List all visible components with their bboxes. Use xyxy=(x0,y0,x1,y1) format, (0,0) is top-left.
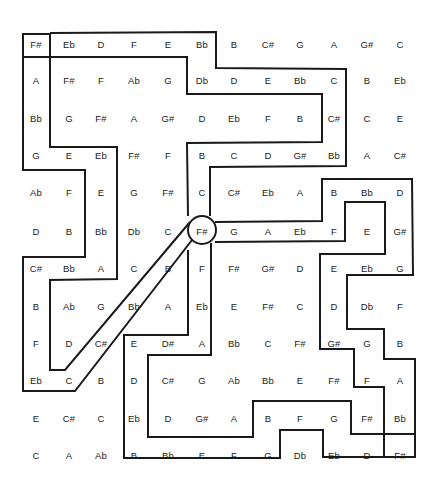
note-cell: F# xyxy=(328,375,340,386)
note-cell: G xyxy=(296,39,304,50)
note-cell: G# xyxy=(360,39,373,50)
note-cell: C xyxy=(97,413,104,424)
note-cell: C# xyxy=(30,263,43,274)
note-cell: F# xyxy=(228,263,240,274)
note-cell: A xyxy=(199,338,206,349)
note-cell: G# xyxy=(161,113,174,124)
note-cell: F xyxy=(199,263,205,274)
note-cell: C# xyxy=(162,375,175,386)
note-cell: Ab xyxy=(95,450,107,461)
note-cell: F xyxy=(364,375,370,386)
note-cell: Bb xyxy=(196,39,208,50)
note-cell: A xyxy=(331,39,338,50)
wall-right-lower xyxy=(148,202,385,437)
note-cell: Eb xyxy=(95,150,107,161)
note-cell: F# xyxy=(128,150,140,161)
note-cell: G# xyxy=(293,150,306,161)
note-cell: F xyxy=(397,301,403,312)
note-cell: F xyxy=(297,413,303,424)
note-cell: D xyxy=(330,301,337,312)
note-cell: F xyxy=(265,113,271,124)
note-cell: Eb xyxy=(328,450,340,461)
note-cell: A xyxy=(165,301,172,312)
note-cell: F# xyxy=(196,226,208,237)
note-cell: C xyxy=(230,150,237,161)
note-cell: G# xyxy=(261,263,274,274)
note-cell: C xyxy=(164,226,171,237)
note-cell: F xyxy=(131,39,137,50)
note-cell: D xyxy=(65,338,72,349)
note-cell: Db xyxy=(294,450,307,461)
note-cell: F# xyxy=(394,450,406,461)
note-cell: Eb xyxy=(128,413,140,424)
note-cell: C xyxy=(363,113,370,124)
note-cell: Eb xyxy=(361,263,373,274)
note-cell: Bb xyxy=(294,75,306,86)
note-cell: Db xyxy=(128,226,141,237)
note-cell: Eb xyxy=(196,301,208,312)
note-cell: F# xyxy=(63,75,75,86)
note-cell: B xyxy=(98,375,105,386)
note-cell: Bb xyxy=(162,450,174,461)
note-cell: F xyxy=(33,338,39,349)
note-cell: D# xyxy=(162,338,175,349)
note-cell: D xyxy=(396,187,403,198)
note-cell: B xyxy=(165,263,172,274)
note-cell: Eb xyxy=(30,375,42,386)
note-cell: Ab xyxy=(128,75,140,86)
note-cell: Bb xyxy=(30,113,42,124)
note-cell: E xyxy=(331,263,338,274)
note-cell: D xyxy=(198,113,205,124)
note-cell: C xyxy=(330,75,337,86)
note-cell: C# xyxy=(328,113,341,124)
note-cell: F xyxy=(66,187,72,198)
note-cell: E xyxy=(98,187,105,198)
note-cell: C# xyxy=(63,413,76,424)
note-cell: D xyxy=(264,150,271,161)
note-cell: D xyxy=(32,226,39,237)
note-cell: E xyxy=(33,413,40,424)
note-cell: Ab xyxy=(228,375,240,386)
note-cell: B xyxy=(331,187,338,198)
note-cell: A xyxy=(231,413,238,424)
note-cell: B xyxy=(364,75,371,86)
note-cell: G# xyxy=(195,413,208,424)
note-cell: Eb xyxy=(294,226,306,237)
note-cell: Bb xyxy=(361,187,373,198)
note-cell: A xyxy=(98,263,105,274)
note-cell: C xyxy=(264,338,271,349)
note-cell: Eb xyxy=(262,187,274,198)
note-cell: B xyxy=(297,113,304,124)
note-cell: E xyxy=(231,301,238,312)
note-cell: G xyxy=(65,113,73,124)
note-cell: D xyxy=(164,413,171,424)
note-cell: C xyxy=(32,450,39,461)
note-cell: C# xyxy=(394,150,407,161)
note-cell: A xyxy=(131,113,138,124)
note-cell: B xyxy=(33,301,40,312)
note-cell: G xyxy=(264,450,272,461)
note-cell: Bb xyxy=(63,263,75,274)
note-cell: F xyxy=(231,450,237,461)
note-cell: C# xyxy=(262,39,275,50)
note-cell: A xyxy=(265,226,272,237)
note-cell: F# xyxy=(262,301,274,312)
note-cell: Eb xyxy=(394,75,406,86)
note-cell: B xyxy=(265,413,272,424)
note-cell: F# xyxy=(95,113,107,124)
note-cell: C xyxy=(296,301,303,312)
note-cell: A xyxy=(364,150,371,161)
note-cell: A xyxy=(397,375,404,386)
note-cell: E xyxy=(131,338,138,349)
note-cell: G xyxy=(363,338,371,349)
note-cell: A xyxy=(297,187,304,198)
note-cell: D xyxy=(296,263,303,274)
wall-left-inner xyxy=(50,57,190,370)
note-cell: G# xyxy=(327,338,340,349)
note-cell: E xyxy=(265,75,272,86)
note-cell: B xyxy=(131,450,138,461)
note-cell: Bb xyxy=(128,301,140,312)
note-cell: F# xyxy=(30,39,42,50)
wall-top-inner xyxy=(50,57,322,216)
note-cell: Bb xyxy=(262,375,274,386)
